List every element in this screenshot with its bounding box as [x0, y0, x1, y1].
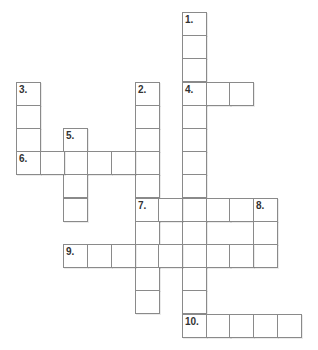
crossword-cell[interactable]: [182, 290, 207, 314]
clue-number: 3.: [19, 84, 27, 95]
crossword-cell[interactable]: [182, 198, 207, 222]
crossword-cell[interactable]: [182, 105, 207, 129]
clue-number: 6.: [19, 153, 27, 164]
crossword-cell[interactable]: [277, 314, 302, 338]
crossword-grid: 1.4.10.2.7.3.6.5.8.9.: [0, 0, 318, 350]
crossword-cell[interactable]: [16, 105, 41, 129]
clue-number: 8.: [256, 200, 264, 211]
crossword-cell[interactable]: 8.: [253, 198, 278, 222]
crossword-cell[interactable]: [158, 244, 183, 268]
crossword-cell[interactable]: [182, 151, 207, 175]
crossword-cell[interactable]: [87, 244, 112, 268]
crossword-cell[interactable]: [135, 105, 160, 129]
crossword-cell[interactable]: 4.: [182, 82, 207, 106]
crossword-cell[interactable]: 9.: [63, 244, 88, 268]
clue-number: 9.: [66, 246, 74, 257]
crossword-cell[interactable]: [111, 151, 136, 175]
crossword-cell[interactable]: [135, 267, 160, 291]
crossword-cell[interactable]: 5.: [63, 128, 88, 152]
crossword-cell[interactable]: [182, 35, 207, 59]
crossword-cell[interactable]: [182, 58, 207, 82]
crossword-cell[interactable]: [135, 290, 160, 314]
crossword-cell[interactable]: [182, 128, 207, 152]
crossword-cell[interactable]: [182, 221, 207, 245]
crossword-cell[interactable]: [206, 314, 231, 338]
crossword-cell[interactable]: [253, 314, 278, 338]
crossword-cell[interactable]: [111, 244, 136, 268]
crossword-cell[interactable]: 3.: [16, 82, 41, 106]
crossword-cell[interactable]: 2.: [135, 82, 160, 106]
crossword-cell[interactable]: [135, 221, 160, 245]
crossword-cell[interactable]: [63, 174, 88, 198]
crossword-cell[interactable]: [135, 174, 160, 198]
crossword-cell[interactable]: 10.: [182, 314, 207, 338]
crossword-cell[interactable]: [158, 198, 183, 222]
clue-number: 7.: [138, 200, 146, 211]
clue-number: 5.: [66, 130, 74, 141]
crossword-cell[interactable]: [229, 244, 254, 268]
crossword-cell[interactable]: [206, 244, 231, 268]
crossword-cell[interactable]: [40, 151, 65, 175]
crossword-cell[interactable]: [229, 198, 254, 222]
crossword-cell[interactable]: [182, 174, 207, 198]
crossword-cell[interactable]: [253, 244, 278, 268]
crossword-cell[interactable]: [135, 128, 160, 152]
crossword-cell[interactable]: 7.: [135, 198, 160, 222]
crossword-cell[interactable]: [229, 314, 254, 338]
crossword-cell[interactable]: [182, 267, 207, 291]
crossword-cell[interactable]: [253, 221, 278, 245]
crossword-cell[interactable]: [206, 82, 231, 106]
crossword-cell[interactable]: 1.: [182, 12, 207, 36]
crossword-cell[interactable]: [182, 244, 207, 268]
clue-number: 2.: [138, 84, 146, 95]
crossword-cell[interactable]: [63, 151, 88, 175]
clue-number: 10.: [185, 316, 199, 327]
crossword-cell[interactable]: [206, 198, 231, 222]
crossword-cell[interactable]: [87, 151, 112, 175]
crossword-cell[interactable]: [229, 82, 254, 106]
crossword-cell[interactable]: 6.: [16, 151, 41, 175]
crossword-cell[interactable]: [135, 151, 160, 175]
crossword-cell[interactable]: [16, 128, 41, 152]
crossword-cell[interactable]: [135, 244, 160, 268]
crossword-cell[interactable]: [63, 198, 88, 222]
clue-number: 4.: [185, 84, 193, 95]
clue-number: 1.: [185, 14, 193, 25]
